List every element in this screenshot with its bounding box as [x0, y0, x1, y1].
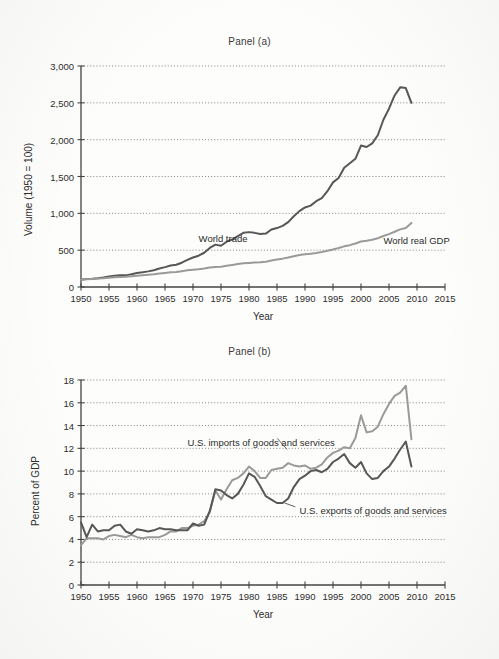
y-tick-label: 4	[69, 534, 74, 545]
series-line-1	[81, 442, 411, 538]
x-tick-label: 2010	[406, 591, 427, 602]
series-label-0: U.S. imports of goods and services	[187, 436, 334, 447]
panel-a-plot-area: Year 05001,0001,5002,0002,5003,000195019…	[81, 66, 445, 287]
y-tick-label: 8	[69, 488, 74, 499]
panel-b-title: Panel (b)	[0, 346, 499, 357]
y-tick-label: 2,500	[50, 97, 74, 108]
series-line-0	[81, 87, 411, 279]
x-tick-label: 2000	[350, 293, 371, 304]
x-tick-label: 1990	[294, 293, 315, 304]
y-tick-label: 10	[63, 466, 74, 477]
x-tick-label: 1965	[154, 591, 175, 602]
x-tick-label: 1950	[70, 293, 91, 304]
y-tick-label: 14	[63, 420, 74, 431]
x-tick-label: 1980	[238, 591, 259, 602]
y-tick-label: 1,500	[50, 171, 74, 182]
series-label-1: U.S. exports of goods and services	[299, 504, 446, 515]
x-tick-label: 1960	[126, 591, 147, 602]
x-tick-label: 2000	[350, 591, 371, 602]
x-tick-label: 1995	[322, 293, 343, 304]
annotation-leader-line	[285, 503, 296, 507]
panel-b-x-axis-label: Year	[81, 609, 445, 620]
x-tick-label: 1985	[266, 293, 287, 304]
y-tick-label: 1,000	[50, 208, 74, 219]
x-tick-label: 1975	[210, 293, 231, 304]
x-tick-label: 2005	[378, 591, 399, 602]
y-tick-label: 0	[69, 580, 74, 591]
series-label-0: World trade	[199, 233, 248, 244]
x-tick-label: 1980	[238, 293, 259, 304]
y-tick-label: 16	[63, 397, 74, 408]
y-tick-label: 3,000	[50, 61, 74, 72]
y-tick-label: 18	[63, 375, 74, 386]
x-tick-label: 1970	[182, 591, 203, 602]
y-tick-label: 12	[63, 443, 74, 454]
panel-a-x-axis-label: Year	[81, 311, 445, 322]
x-tick-label: 1965	[154, 293, 175, 304]
x-tick-label: 2015	[434, 293, 455, 304]
y-tick-label: 2	[69, 557, 74, 568]
x-tick-label: 2005	[378, 293, 399, 304]
figure-page: Panel (a) Volume (1950 = 100) Year 05001…	[0, 0, 499, 659]
x-tick-label: 1975	[210, 591, 231, 602]
x-tick-label: 2015	[434, 591, 455, 602]
x-tick-label: 1970	[182, 293, 203, 304]
panel-b-plot-area: Year 02468101214161819501955196019651970…	[81, 380, 445, 585]
panel-b-y-axis-label: Percent of GDP	[30, 456, 41, 526]
x-tick-label: 1955	[98, 591, 119, 602]
panel-b: Panel (b) Percent of GDP Year 0246810121…	[0, 340, 499, 659]
x-tick-label: 2010	[406, 293, 427, 304]
y-tick-label: 6	[69, 511, 74, 522]
x-tick-label: 1960	[126, 293, 147, 304]
panel-a-title: Panel (a)	[0, 36, 499, 47]
series-label-1: World real GDP	[383, 234, 449, 245]
panel-b-svg	[81, 380, 445, 585]
series-line-1	[81, 223, 411, 280]
x-tick-label: 1950	[70, 591, 91, 602]
y-tick-label: 500	[58, 245, 74, 256]
panel-a: Panel (a) Volume (1950 = 100) Year 05001…	[0, 28, 499, 348]
panel-a-y-axis-label: Volume (1950 = 100)	[23, 143, 34, 236]
x-tick-label: 1955	[98, 293, 119, 304]
x-tick-label: 1990	[294, 591, 315, 602]
y-tick-label: 2,000	[50, 134, 74, 145]
x-tick-label: 1985	[266, 591, 287, 602]
panel-a-svg	[81, 66, 445, 287]
y-tick-label: 0	[69, 282, 74, 293]
x-tick-label: 1995	[322, 591, 343, 602]
